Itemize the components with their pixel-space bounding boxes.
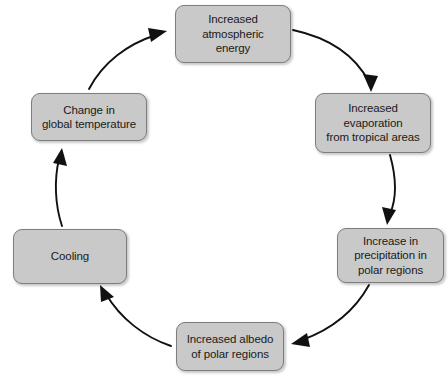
node-increased-albedo: Increased albedo of polar regions [176,322,284,371]
arrow-evaporation-to-precipitation [382,155,396,225]
node-cooling: Cooling [13,229,127,284]
node-label: Increased albedo of polar regions [182,332,279,361]
node-change-in-global-temperature: Change in global temperature [31,93,147,141]
node-label: Increased atmospheric energy [197,12,269,56]
arrow-global-temperature-to-atmospheric-energy [89,28,167,89]
node-label: Increased evaporation from tropical area… [321,101,424,145]
arrow-atmospheric-energy-to-evaporation [293,30,378,92]
node-label: Cooling [46,249,94,264]
node-label: Change in global temperature [37,103,141,132]
climate-feedback-cycle-diagram: Increased atmospheric energy Increased e… [0,0,448,390]
node-label: Increase in precipitation in polar regio… [349,234,432,278]
node-increase-in-precipitation: Increase in precipitation in polar regio… [337,228,444,283]
node-increased-evaporation: Increased evaporation from tropical area… [315,93,431,153]
arrow-cooling-to-global-temperature [53,148,67,226]
arrow-albedo-to-cooling [100,285,171,346]
arrow-precipitation-to-albedo [291,285,369,347]
node-increased-atmospheric-energy: Increased atmospheric energy [175,5,291,63]
